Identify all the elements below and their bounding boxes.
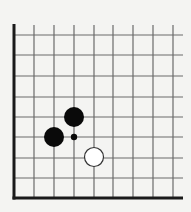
board-edges [13,24,184,200]
markers [71,134,77,140]
black-stone [44,127,64,147]
white-stone [85,148,104,167]
go-board [0,0,191,212]
point-marker-dot [71,134,77,140]
black-stone [64,107,84,127]
grid-lines [14,25,183,198]
